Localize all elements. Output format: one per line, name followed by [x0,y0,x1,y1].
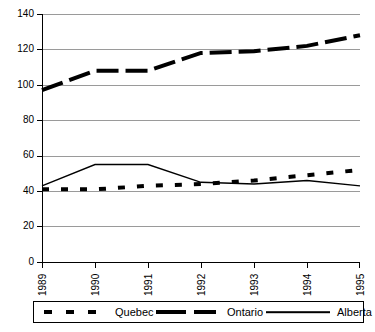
x-tick-label-1994: 1994 [303,274,313,296]
x-tick-label-1991: 1991 [144,274,154,296]
legend-label-alberta: Alberta [337,306,372,318]
y-tick-label-60: 60 [6,150,34,160]
legend-swatch-ontario-icon [156,306,222,318]
y-tick-label-20: 20 [6,221,34,231]
series-line-ontario [42,35,360,90]
legend-label-ontario: Ontario [227,306,263,318]
legend-item-quebec: Quebec [44,302,154,322]
line-chart: 140 120 100 80 60 40 20 0 1989 1990 1991… [0,0,375,332]
x-tick-label-1993: 1993 [250,274,260,296]
y-tick-label-140: 140 [6,9,34,19]
plot-area [0,0,375,332]
legend-label-quebec: Quebec [115,306,154,318]
y-tick-label-120: 120 [6,44,34,54]
legend-item-alberta: Alberta [266,302,372,322]
x-tick-label-1990: 1990 [91,274,101,296]
legend-item-ontario: Ontario [156,302,263,322]
legend-swatch-quebec-icon [44,306,110,318]
legend-swatch-alberta-icon [266,306,332,318]
x-tick-label-1995: 1995 [356,274,366,296]
chart-legend: Quebec Ontario Alberta [33,301,364,323]
axis-lines [42,14,360,263]
series-line-alberta [42,165,360,186]
series-line-quebec [42,170,360,189]
y-tick-label-80: 80 [6,115,34,125]
y-tick-label-0: 0 [6,257,34,267]
x-tick-label-1989: 1989 [38,274,48,296]
y-tick-label-100: 100 [6,80,34,90]
gridlines [42,15,360,227]
y-axis-ticks [37,15,42,263]
y-tick-label-40: 40 [6,186,34,196]
x-tick-label-1992: 1992 [197,274,207,296]
x-axis-ticks [43,262,360,268]
